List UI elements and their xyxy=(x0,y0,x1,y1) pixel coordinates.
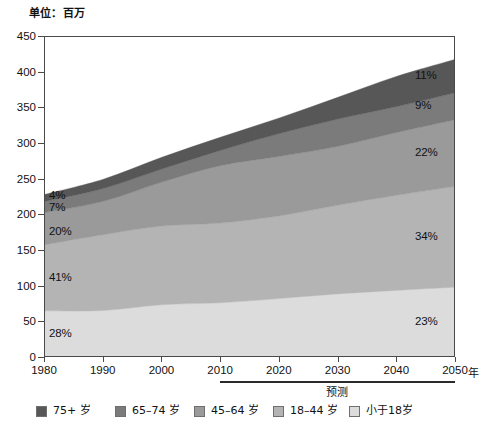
legend-swatch-icon xyxy=(115,406,126,417)
legend-swatch-icon xyxy=(349,406,360,417)
x-tick-label-2040: 2040 xyxy=(383,364,409,376)
stacked-area-svg xyxy=(45,37,454,356)
percent-label-2050-18–44 岁: 34% xyxy=(415,230,437,242)
legend-label: 小于18岁 xyxy=(366,404,413,418)
percent-label-1980-65–74 岁: 7% xyxy=(49,201,65,213)
x-axis-unit-label: 年 xyxy=(468,364,479,380)
legend: 75+ 岁65–74 岁45–64 岁18–44 岁小于18岁 xyxy=(0,400,501,441)
y-tick-label-300: 300 xyxy=(17,137,36,149)
y-tick-label-350: 350 xyxy=(17,101,36,113)
x-tick-label-2030: 2030 xyxy=(325,364,351,376)
legend-item-45–64 岁[interactable]: 45–64 岁 xyxy=(194,404,259,418)
x-tick-mark xyxy=(103,357,104,362)
forecast-label: 预测 xyxy=(326,383,348,399)
legend-item-18–44 岁[interactable]: 18–44 岁 xyxy=(273,404,338,418)
percent-label-2050-45–64 岁: 22% xyxy=(415,146,437,158)
percent-label-1980-18–44 岁: 41% xyxy=(49,271,71,283)
x-tick-label-1980: 1980 xyxy=(31,364,57,376)
x-tick-mark xyxy=(161,357,162,362)
x-tick-mark xyxy=(279,357,280,362)
x-tick-mark xyxy=(396,357,397,362)
x-tick-label-2020: 2020 xyxy=(266,364,292,376)
legend-label: 45–64 岁 xyxy=(211,404,259,418)
y-tick-label-400: 400 xyxy=(17,66,36,78)
legend-label: 18–44 岁 xyxy=(290,404,338,418)
y-tick-label-450: 450 xyxy=(17,30,36,42)
y-tick-label-100: 100 xyxy=(17,280,36,292)
legend-item-小于18岁[interactable]: 小于18岁 xyxy=(349,404,413,418)
x-tick-mark xyxy=(455,357,456,362)
x-tick-label-2050: 2050 xyxy=(442,364,468,376)
y-axis: 050100150200250300350400450 xyxy=(0,0,44,400)
x-tick-mark xyxy=(220,357,221,362)
y-tick-label-50: 50 xyxy=(23,315,36,327)
legend-swatch-icon xyxy=(273,406,284,417)
legend-swatch-icon xyxy=(194,406,205,417)
plot-area xyxy=(44,36,455,357)
x-tick-label-2000: 2000 xyxy=(149,364,175,376)
x-tick-mark xyxy=(44,357,45,362)
chart-root: 单位：百万 050100150200250300350400450 4%7%20… xyxy=(0,0,501,441)
percent-label-2050-小于18岁: 23% xyxy=(415,315,437,327)
percent-label-2050-65–74 岁: 9% xyxy=(415,99,431,111)
y-tick-label-200: 200 xyxy=(17,208,36,220)
legend-item-75+ 岁[interactable]: 75+ 岁 xyxy=(36,404,91,418)
legend-swatch-icon xyxy=(36,406,47,417)
percent-label-1980-小于18岁: 28% xyxy=(49,327,71,339)
y-tick-label-150: 150 xyxy=(17,244,36,256)
percent-label-1980-45–64 岁: 20% xyxy=(49,225,71,237)
y-tick-label-250: 250 xyxy=(17,173,36,185)
x-tick-label-2010: 2010 xyxy=(207,364,233,376)
x-tick-mark xyxy=(338,357,339,362)
legend-label: 75+ 岁 xyxy=(53,404,91,418)
x-tick-label-1990: 1990 xyxy=(90,364,116,376)
percent-label-2050-75+ 岁: 11% xyxy=(415,69,437,81)
y-tick-label-0: 0 xyxy=(30,351,36,363)
legend-item-65–74 岁[interactable]: 65–74 岁 xyxy=(115,404,180,418)
percent-label-1980-75+ 岁: 4% xyxy=(49,189,65,201)
legend-label: 65–74 岁 xyxy=(132,404,180,418)
